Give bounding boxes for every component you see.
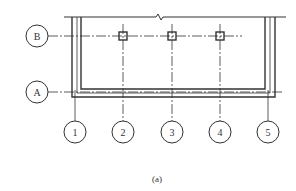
plan-drawing: B A 1 2 3 4 5 (a): [0, 0, 296, 191]
axis-label-b: B: [34, 31, 41, 42]
top-boundary-line: [64, 14, 286, 20]
axis-label-5: 5: [266, 127, 271, 138]
axis-label-a: A: [33, 87, 41, 98]
axis-label-4: 4: [218, 127, 223, 138]
outer-wall: [72, 17, 275, 97]
wall-centre-line: [77, 17, 270, 93]
axis-label-1: 1: [73, 127, 78, 138]
axis-label-2: 2: [121, 127, 126, 138]
axis-label-3: 3: [170, 127, 175, 138]
figure-caption: (a): [152, 174, 162, 184]
inner-wall: [81, 17, 265, 89]
